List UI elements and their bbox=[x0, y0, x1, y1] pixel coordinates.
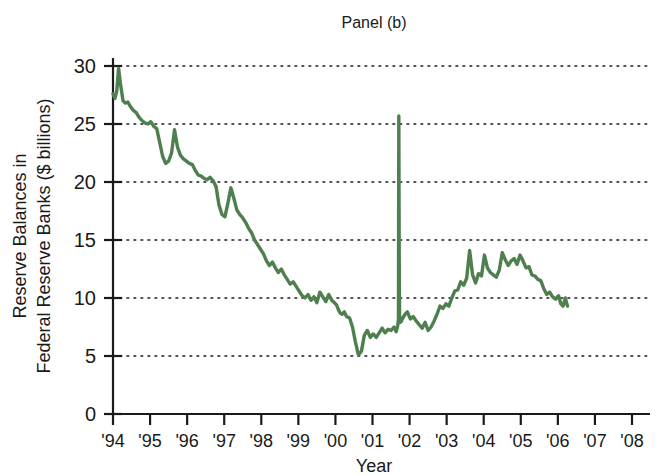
x-tick-label-2004: '04 bbox=[472, 431, 495, 451]
x-tick-label-1998: '98 bbox=[250, 431, 273, 451]
x-tick-label-1995: '95 bbox=[138, 431, 161, 451]
x-tick-label-1997: '97 bbox=[212, 431, 235, 451]
chart-title: Panel (b) bbox=[342, 14, 407, 31]
chart-figure: Panel (b) 051015202530 '94'95'96'97'98'9… bbox=[0, 0, 657, 475]
x-tick-label-2008: '08 bbox=[620, 431, 643, 451]
x-tick-label-2007: '07 bbox=[583, 431, 606, 451]
y-axis-title-line1: Reserve Balances in bbox=[10, 153, 30, 318]
x-tick-label-2000: '00 bbox=[324, 431, 347, 451]
x-tick-label-2006: '06 bbox=[546, 431, 569, 451]
data-line-reserve-balances bbox=[113, 68, 568, 355]
line-chart: Panel (b) 051015202530 '94'95'96'97'98'9… bbox=[0, 0, 657, 475]
y-axis-ticks: 051015202530 bbox=[74, 55, 122, 425]
gridlines bbox=[113, 66, 650, 356]
y-tick-label-5: 5 bbox=[85, 345, 96, 367]
y-tick-label-25: 25 bbox=[74, 113, 96, 135]
y-tick-label-20: 20 bbox=[74, 171, 96, 193]
x-axis-ticks: '94'95'96'97'98'99'00'01'02'03'04'05'06'… bbox=[101, 414, 643, 451]
x-tick-label-2002: '02 bbox=[398, 431, 421, 451]
x-axis-title: Year bbox=[356, 456, 392, 475]
y-axis-title-line2: Federal Reserve Banks ($ billions) bbox=[34, 98, 54, 373]
x-tick-label-1999: '99 bbox=[287, 431, 310, 451]
x-tick-label-2003: '03 bbox=[435, 431, 458, 451]
x-tick-label-2005: '05 bbox=[509, 431, 532, 451]
x-tick-label-1994: '94 bbox=[101, 431, 124, 451]
y-tick-label-0: 0 bbox=[85, 403, 96, 425]
y-tick-label-30: 30 bbox=[74, 55, 96, 77]
y-tick-label-10: 10 bbox=[74, 287, 96, 309]
y-tick-label-15: 15 bbox=[74, 229, 96, 251]
x-tick-label-2001: '01 bbox=[361, 431, 384, 451]
x-tick-label-1996: '96 bbox=[175, 431, 198, 451]
